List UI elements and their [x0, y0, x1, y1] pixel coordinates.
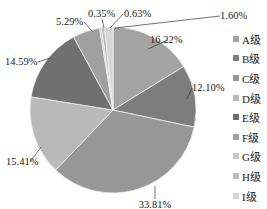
legend-swatch	[233, 75, 239, 81]
legend-swatch	[233, 153, 239, 159]
legend-label: H级	[242, 168, 261, 184]
slice-label: 5.29%	[56, 16, 83, 27]
legend-label: F级	[242, 129, 259, 145]
legend-swatch	[233, 114, 239, 120]
slice-label: 0.63%	[124, 8, 151, 19]
pie-chart: 16.22%12.10%33.81%15.41%14.59%5.29%0.35%…	[0, 0, 267, 209]
legend-label: C级	[242, 70, 260, 86]
legend-item: C级	[233, 68, 261, 88]
slice-label: 15.41%	[6, 156, 39, 167]
legend-item: F级	[233, 127, 261, 147]
legend: A级 B级 C级 D级 E级 F级 G级 H级 I级	[233, 29, 261, 205]
legend-swatch	[233, 36, 239, 42]
legend-item: H级	[233, 166, 261, 186]
legend-label: D级	[242, 90, 261, 106]
legend-swatch	[233, 193, 239, 199]
pie-slices	[30, 27, 196, 193]
slice-label: 16.22%	[150, 34, 183, 45]
legend-label: G级	[242, 148, 261, 164]
legend-label: A级	[242, 31, 261, 47]
legend-item: D级	[233, 88, 261, 108]
legend-swatch	[233, 173, 239, 179]
legend-label: E级	[242, 109, 260, 125]
legend-item: B级	[233, 49, 261, 69]
leader-line	[102, 19, 104, 28]
leader-line	[84, 22, 92, 31]
slice-label: 0.35%	[88, 8, 115, 19]
legend-swatch	[233, 55, 239, 61]
slice-label: 33.81%	[139, 199, 172, 209]
legend-item: A级	[233, 29, 261, 49]
slice-label: 14.59%	[5, 56, 38, 67]
slice-label: 12.10%	[192, 82, 225, 93]
legend-item: I级	[233, 186, 261, 206]
slice-label: 1.60%	[220, 10, 247, 21]
legend-swatch	[233, 95, 239, 101]
legend-swatch	[233, 134, 239, 140]
legend-label: B级	[242, 50, 260, 66]
legend-label: I级	[242, 188, 257, 204]
legend-item: E级	[233, 107, 261, 127]
legend-item: G级	[233, 147, 261, 167]
